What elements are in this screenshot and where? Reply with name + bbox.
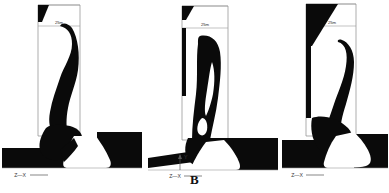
panel-a-canvas: Z—X 25m bbox=[2, 0, 142, 180]
figure-root: Z—X 25m bbox=[0, 0, 389, 193]
panel-c-scale-label: 25m bbox=[328, 20, 337, 25]
panel-b-canvas: Y Z—X 25m bbox=[148, 0, 278, 180]
panel-a: Z—X 25m bbox=[2, 0, 142, 180]
figure-caption: B bbox=[0, 172, 389, 188]
panel-a-scale-label: 25m bbox=[55, 20, 64, 25]
panel-b-scale-label: 25m bbox=[201, 22, 210, 27]
panel-b: Y Z—X 25m bbox=[148, 0, 278, 180]
panel-b-left-strip bbox=[182, 28, 186, 96]
panel-c-canvas: Z—X 25m bbox=[282, 0, 388, 180]
panel-c: Z—X 25m bbox=[282, 0, 388, 180]
panel-c-left-strip bbox=[306, 46, 311, 118]
panel-b-axis-vertical-label: Y bbox=[184, 154, 188, 160]
